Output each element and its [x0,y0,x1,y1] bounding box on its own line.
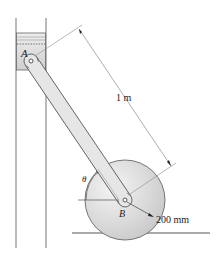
slider-crank-diagram: A B θ 1 m 200 mm [0,0,217,253]
pin-a [29,59,33,63]
label-angle: θ [82,174,87,184]
label-point-b: B [119,208,125,219]
label-point-a: A [20,47,28,59]
connecting-rod [24,54,132,207]
pin-b [123,198,127,202]
label-wheel-radius: 200 mm [156,214,189,225]
label-rod-length: 1 m [116,92,132,103]
